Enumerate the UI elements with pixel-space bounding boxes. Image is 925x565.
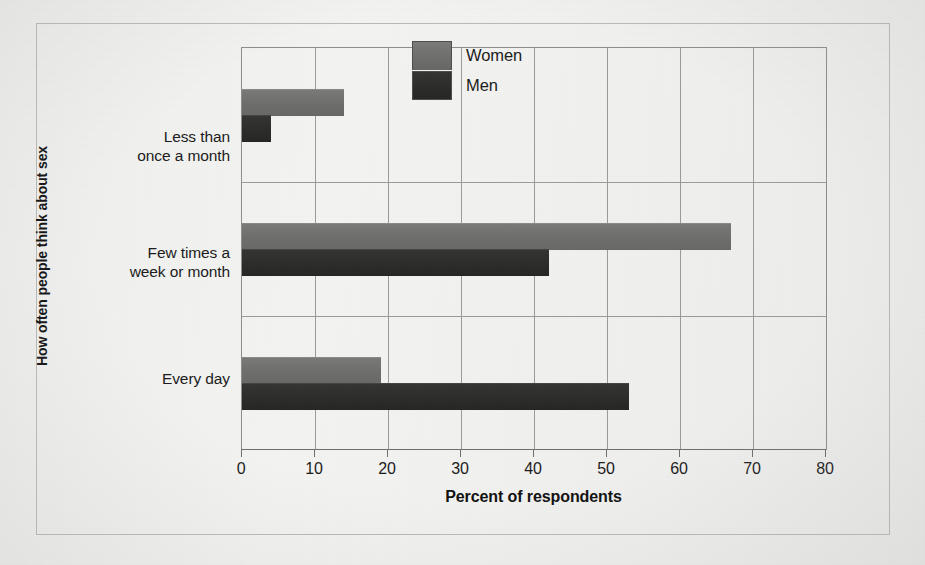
legend-swatch-men xyxy=(412,71,452,100)
x-tick-label: 70 xyxy=(743,460,760,478)
x-tick-label: 50 xyxy=(597,460,614,478)
category-label-group: Less than once a month Few times a week … xyxy=(25,47,230,449)
x-axis-tick xyxy=(460,449,461,457)
group-divider xyxy=(242,316,826,317)
category-label-line: week or month xyxy=(30,262,230,281)
x-tick-label-group: 01020304050607080 xyxy=(241,460,826,484)
x-axis-tick xyxy=(314,449,315,457)
x-axis-tick xyxy=(825,449,826,457)
category-label-line: Few times a xyxy=(30,243,230,262)
category-label-line: Less than xyxy=(30,127,230,146)
x-axis-title: Percent of respondents xyxy=(241,488,826,506)
figure-container: How often people think about sex Less th… xyxy=(0,0,925,565)
category-label-line: Every day xyxy=(30,369,230,388)
category-label-line: once a month xyxy=(30,146,230,165)
bar-women-1 xyxy=(242,89,344,116)
x-tick-label: 20 xyxy=(378,460,395,478)
category-label-every-day: Every day xyxy=(30,369,230,388)
x-tick-label: 30 xyxy=(451,460,468,478)
x-axis-tick xyxy=(752,449,753,457)
legend: Women Men xyxy=(412,40,522,100)
legend-item-men: Men xyxy=(412,70,522,100)
legend-item-women: Women xyxy=(412,40,522,70)
group-divider xyxy=(242,182,826,183)
bar-women-3 xyxy=(242,357,381,384)
plot-area xyxy=(241,47,827,450)
x-axis-tick xyxy=(241,449,242,457)
legend-swatch-women xyxy=(412,41,452,70)
category-label-few-times-a-week-or-month: Few times a week or month xyxy=(30,243,230,281)
x-tick-label: 80 xyxy=(816,460,833,478)
x-tick-label: 10 xyxy=(305,460,322,478)
x-axis-tick xyxy=(679,449,680,457)
legend-label-men: Men xyxy=(466,76,498,95)
x-tick-label: 0 xyxy=(237,460,246,478)
x-axis-tick xyxy=(387,449,388,457)
bar-men-3 xyxy=(242,383,629,410)
x-axis-tick xyxy=(533,449,534,457)
bar-men-2 xyxy=(242,249,549,276)
legend-label-women: Women xyxy=(466,46,522,65)
category-label-less-than-once-a-month: Less than once a month xyxy=(30,127,230,165)
bar-men-1 xyxy=(242,115,271,142)
bar-women-2 xyxy=(242,223,731,250)
x-tick-label: 60 xyxy=(670,460,687,478)
x-tick-label: 40 xyxy=(524,460,541,478)
gridline-vertical xyxy=(753,48,754,450)
x-axis-tick xyxy=(606,449,607,457)
